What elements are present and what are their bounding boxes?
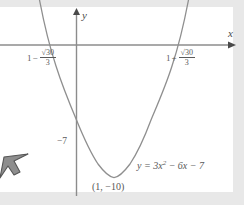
x-intercept-right-operator: + [171,54,178,63]
screenshot-root: y x 1 − √30 3 1 + √30 3 −7 (1, −10) y = … [0,0,244,205]
x-axis-label: x [228,28,233,39]
y-axis-label: y [82,10,87,21]
x-intercept-right-label: 1 + √30 3 [166,49,195,67]
equation-suffix: − 6x − 7 [166,160,204,171]
vertex-label: (1, −10) [92,182,124,192]
parabola-curve [40,0,189,178]
x-axis-arrowhead [228,42,236,49]
equation-label: y = 3x2 − 6x − 7 [137,160,204,171]
x-intercept-left-fraction: √30 3 [40,49,56,67]
y-intercept-label: −7 [57,137,67,147]
equation-prefix: y = 3x [137,160,163,171]
x-intercept-left-label: 1 − √30 3 [27,49,56,67]
x-intercept-right-fraction: √30 3 [179,49,195,67]
x-intercept-left-operator: − [32,54,39,63]
x-intercept-left-numerator: √30 [40,49,56,58]
y-axis-arrowhead [73,8,80,15]
x-intercept-right-denominator: 3 [185,58,189,67]
mouse-pointer-arrow-icon [0,148,38,182]
x-intercept-right-numerator: √30 [179,49,195,58]
x-intercept-left-denominator: 3 [46,58,50,67]
